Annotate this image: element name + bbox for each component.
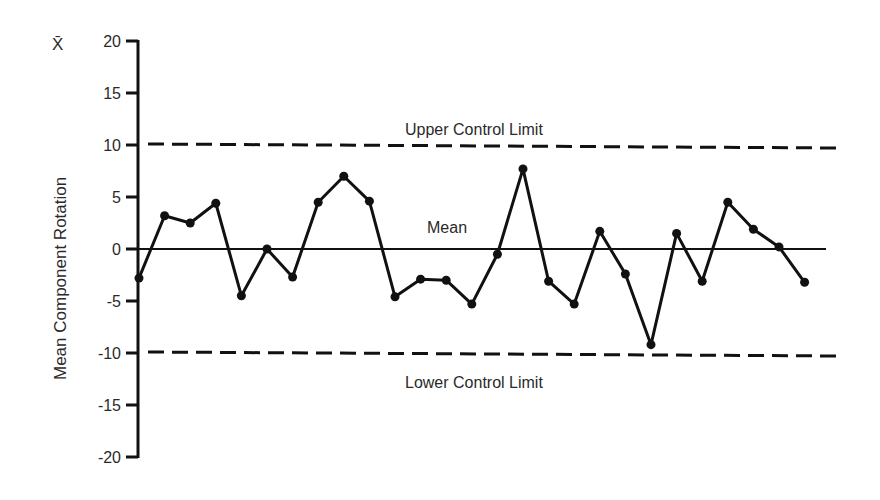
data-point — [672, 229, 681, 238]
y-tick-label: -5 — [107, 293, 121, 310]
lower-control-limit-line — [148, 352, 838, 356]
upper-control-limit-line — [148, 144, 838, 148]
data-point — [723, 198, 732, 207]
control-chart: 20151050-5-10-15-20 Upper Control Limit … — [0, 0, 880, 500]
data-point — [467, 300, 476, 309]
data-point — [775, 242, 784, 251]
data-point — [749, 225, 758, 234]
y-tick-label: -15 — [98, 397, 121, 414]
y-axis-label: Mean Component Rotation — [51, 177, 70, 380]
data-point — [237, 291, 246, 300]
data-point — [800, 278, 809, 287]
y-tick-label: 20 — [103, 33, 121, 50]
lcl-label: Lower Control Limit — [405, 374, 543, 391]
y-tick-label: 15 — [103, 85, 121, 102]
y-tick-label: -10 — [98, 345, 121, 362]
data-point — [698, 277, 707, 286]
data-point — [621, 269, 630, 278]
data-point — [416, 275, 425, 284]
mean-label: Mean — [427, 219, 467, 236]
data-point — [595, 227, 604, 236]
y-tick-label: 0 — [112, 241, 121, 258]
y-tick-label: 5 — [112, 189, 121, 206]
data-point — [314, 198, 323, 207]
reference-lines — [138, 144, 838, 356]
data-point — [493, 250, 502, 259]
data-point — [647, 340, 656, 349]
data-point — [519, 164, 528, 173]
y-axis: 20151050-5-10-15-20 — [98, 33, 138, 466]
data-point — [186, 219, 195, 228]
data-point — [544, 277, 553, 286]
y-tick-label: -20 — [98, 449, 121, 466]
data-series — [135, 164, 810, 349]
data-point — [288, 273, 297, 282]
data-point — [442, 276, 451, 285]
x-bar-symbol: X̄ — [52, 35, 63, 54]
data-point — [365, 197, 374, 206]
series-line — [139, 169, 805, 345]
ucl-label: Upper Control Limit — [405, 121, 543, 138]
data-point — [135, 274, 144, 283]
data-point — [570, 300, 579, 309]
data-point — [391, 292, 400, 301]
data-point — [160, 211, 169, 220]
data-point — [339, 172, 348, 181]
data-point — [211, 199, 220, 208]
y-tick-label: 10 — [103, 137, 121, 154]
data-point — [263, 245, 272, 254]
